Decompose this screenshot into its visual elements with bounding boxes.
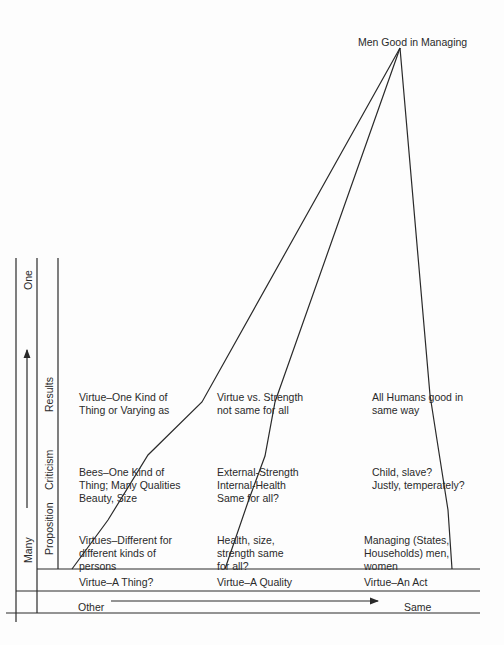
quality-results: Virtue vs. Strength not same for all — [217, 391, 303, 417]
act-proposition: Managing (States, Households) men, women — [364, 534, 449, 573]
thing-category: Virtue–A Thing? — [79, 576, 153, 589]
apex-label: Men Good in Managing — [358, 36, 467, 49]
thing-proposition: Virtues–Different for different kinds of… — [79, 534, 172, 573]
one-label: One — [22, 270, 34, 290]
quality-proposition: Health, size, strength same for all? — [217, 534, 284, 573]
act-criticism: Child, slave? Justly, temperately? — [372, 466, 465, 492]
thing-results: Virtue–One Kind of Thing or Varying as — [79, 391, 169, 417]
row-label-criticism: Criticism — [43, 450, 55, 490]
quality-category: Virtue–A Quality — [217, 576, 292, 589]
act-category: Virtue–An Act — [364, 576, 427, 589]
same-label: Same — [404, 601, 431, 614]
thing-criticism: Bees–One Kind of Thing; Many Qualities B… — [79, 466, 181, 505]
row-label-proposition: Proposition — [43, 502, 55, 555]
act-results: All Humans good in same way — [372, 391, 463, 417]
row-label-results: Results — [43, 377, 55, 412]
many-label: Many — [22, 537, 34, 563]
quality-criticism: External-Strength Internal-Health Same f… — [217, 466, 299, 505]
other-label: Other — [78, 601, 104, 614]
